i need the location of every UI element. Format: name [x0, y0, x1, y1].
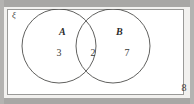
count-a-intersect-b: 2 [87, 48, 99, 58]
count-b-only: 7 [121, 48, 133, 58]
venn-diagram-figure: ξ A B 3 2 7 8 [0, 0, 194, 104]
scan-artifact-top-strip [0, 0, 194, 7]
set-label-a: A [59, 27, 66, 37]
set-label-b: B [116, 27, 123, 37]
scan-artifact-left-edge [0, 0, 4, 104]
scan-artifact-right-edge [190, 0, 194, 104]
scan-artifact-bottom-strip [0, 98, 194, 104]
circle-set-a [22, 9, 96, 83]
count-outside-sets: 8 [178, 83, 190, 93]
circle-set-b [76, 9, 150, 83]
count-a-only: 3 [53, 48, 65, 58]
